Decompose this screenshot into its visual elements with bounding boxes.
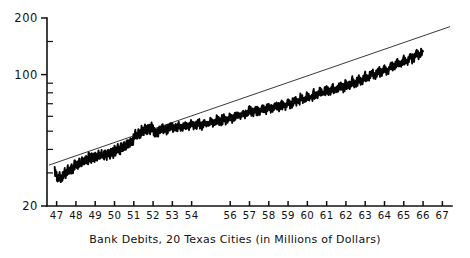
x-tick-label: 61 xyxy=(320,210,334,221)
x-tick-label: 53 xyxy=(166,210,180,221)
trend-line xyxy=(49,27,450,166)
y-tick-label: 100 xyxy=(14,68,38,82)
x-tick-label: 52 xyxy=(146,210,160,221)
x-tick-label: 49 xyxy=(88,210,102,221)
x-tick-label: 54 xyxy=(185,210,199,221)
x-tick-label: 57 xyxy=(243,210,257,221)
y-axis-tick-labels: 20010020 xyxy=(14,11,38,213)
x-tick-label: 63 xyxy=(358,210,372,221)
x-tick-label: 58 xyxy=(262,210,276,221)
x-tick-label: 56 xyxy=(223,210,237,221)
x-tick-label: 64 xyxy=(378,210,392,221)
bank-debits-log-chart: 20010020 4748495051525354565758596061626… xyxy=(0,0,470,258)
x-tick-label: 47 xyxy=(50,210,64,221)
x-axis-tick-labels: 4748495051525354565758596061626364656667 xyxy=(50,210,449,221)
chart-figure: 20010020 4748495051525354565758596061626… xyxy=(0,0,470,258)
x-tick-label: 62 xyxy=(339,210,353,221)
y-axis-major-ticks xyxy=(41,18,47,206)
x-tick-label: 67 xyxy=(436,210,450,221)
x-tick-label: 48 xyxy=(69,210,83,221)
x-tick-label: 59 xyxy=(281,210,295,221)
data-series-line xyxy=(55,49,423,182)
x-tick-label: 60 xyxy=(301,210,315,221)
x-axis-ticks xyxy=(57,201,443,206)
chart-caption: Bank Debits, 20 Texas Cities (in Million… xyxy=(0,233,470,246)
y-tick-label: 20 xyxy=(22,199,38,213)
y-tick-label: 200 xyxy=(14,11,38,25)
x-tick-label: 66 xyxy=(416,210,430,221)
x-tick-label: 51 xyxy=(127,210,141,221)
x-tick-label: 65 xyxy=(397,210,411,221)
y-axis-minor-ticks xyxy=(47,41,53,172)
x-tick-label: 50 xyxy=(108,210,122,221)
